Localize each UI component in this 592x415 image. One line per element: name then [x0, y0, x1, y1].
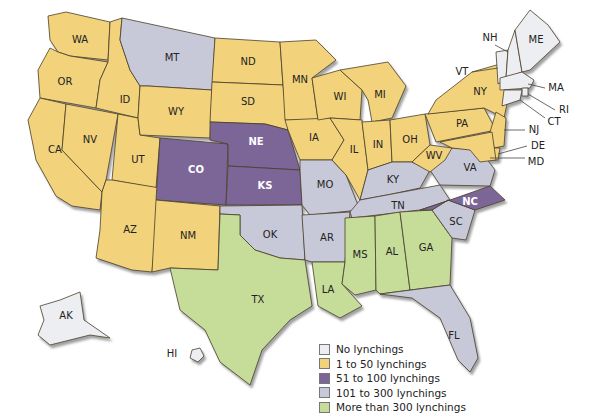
state-label-wy: WY: [168, 106, 185, 117]
legend-swatch: [319, 402, 330, 413]
state-label-va: VA: [463, 162, 476, 173]
state-label-ut: UT: [131, 154, 145, 165]
state-label-il: IL: [350, 144, 359, 155]
state-label-al: AL: [386, 246, 399, 257]
state-label-nm: NM: [180, 230, 196, 241]
state-label-mt: MT: [165, 52, 181, 63]
state-label-ky: KY: [387, 174, 400, 185]
state-label-nj: NJ: [529, 124, 539, 135]
legend-label: 101 to 300 lynchings: [336, 387, 447, 399]
state-label-mo: MO: [317, 179, 334, 190]
legend-item-51-100: 51 to 100 lynchings: [319, 371, 466, 386]
state-label-wv: WV: [426, 150, 443, 161]
state-label-ga: GA: [419, 242, 434, 253]
state-label-mn: MN: [292, 74, 308, 85]
state-label-oh: OH: [402, 134, 417, 145]
state-label-wi: WI: [334, 91, 347, 102]
legend-swatch: [319, 387, 330, 398]
state-label-nc: NC: [462, 196, 478, 207]
state-label-ks: KS: [258, 180, 273, 191]
state-label-vt: VT: [456, 66, 470, 77]
state-label-nv: NV: [83, 134, 97, 145]
state-label-nd: ND: [240, 56, 255, 67]
us-map: WAORCAIDNVUTAZMTWYCONMNDSDNEKSOKTXMNIAMO…: [0, 0, 592, 415]
state-label-ma: MA: [548, 82, 564, 93]
state-label-ri: RI: [559, 104, 569, 115]
state-label-sc: SC: [449, 216, 462, 227]
state-label-ar: AR: [320, 232, 334, 243]
state-label-me: ME: [529, 34, 544, 45]
state-label-or: OR: [58, 76, 73, 87]
state-label-mi: MI: [374, 89, 386, 100]
legend-item-1-50: 1 to 50 lynchings: [319, 357, 466, 372]
legend-label: No lynchings: [336, 343, 404, 355]
state-label-in: IN: [373, 139, 383, 150]
legend-swatch: [319, 358, 330, 369]
state-label-tn: TN: [390, 200, 405, 211]
state-label-ca: CA: [48, 144, 62, 155]
state-label-ms: MS: [353, 249, 368, 260]
state-label-ny: NY: [473, 86, 487, 97]
state-label-co: CO: [188, 164, 204, 175]
state-label-sd: SD: [241, 96, 255, 107]
state-label-ct: CT: [547, 116, 561, 127]
state-label-ia: IA: [309, 132, 319, 143]
state-label-la: LA: [322, 284, 335, 295]
leader-line-ri: [528, 94, 555, 110]
state-label-az: AZ: [123, 224, 137, 235]
legend-label: More than 300 lynchings: [336, 401, 466, 413]
state-label-pa: PA: [456, 118, 468, 129]
state-label-ne: NE: [248, 136, 263, 147]
state-label-id: ID: [120, 94, 131, 105]
state-label-de: DE: [531, 140, 545, 151]
legend-item-none: No lynchings: [319, 342, 466, 357]
state-label-fl: FL: [448, 330, 460, 341]
state-ak: [38, 292, 110, 345]
state-label-md: MD: [528, 156, 545, 167]
legend-label: 1 to 50 lynchings: [336, 358, 427, 370]
state-label-tx: TX: [251, 294, 265, 305]
state-label-ak: AK: [59, 310, 73, 321]
leader-line-de: [498, 146, 527, 154]
state-label-nh: NH: [483, 32, 498, 43]
leader-line-ct: [520, 100, 545, 118]
legend-swatch: [319, 344, 330, 355]
legend: No lynchings 1 to 50 lynchings 51 to 100…: [319, 342, 466, 415]
legend-swatch: [319, 373, 330, 384]
legend-item-300-plus: More than 300 lynchings: [319, 400, 466, 415]
state-ri: [522, 88, 528, 96]
legend-label: 51 to 100 lynchings: [336, 372, 440, 384]
state-hi: [190, 348, 204, 362]
legend-item-101-300: 101 to 300 lynchings: [319, 386, 466, 401]
state-label-wa: WA: [72, 34, 88, 45]
state-ct: [502, 90, 522, 106]
state-label-hi: HI: [167, 348, 177, 359]
state-label-ok: OK: [263, 229, 278, 240]
